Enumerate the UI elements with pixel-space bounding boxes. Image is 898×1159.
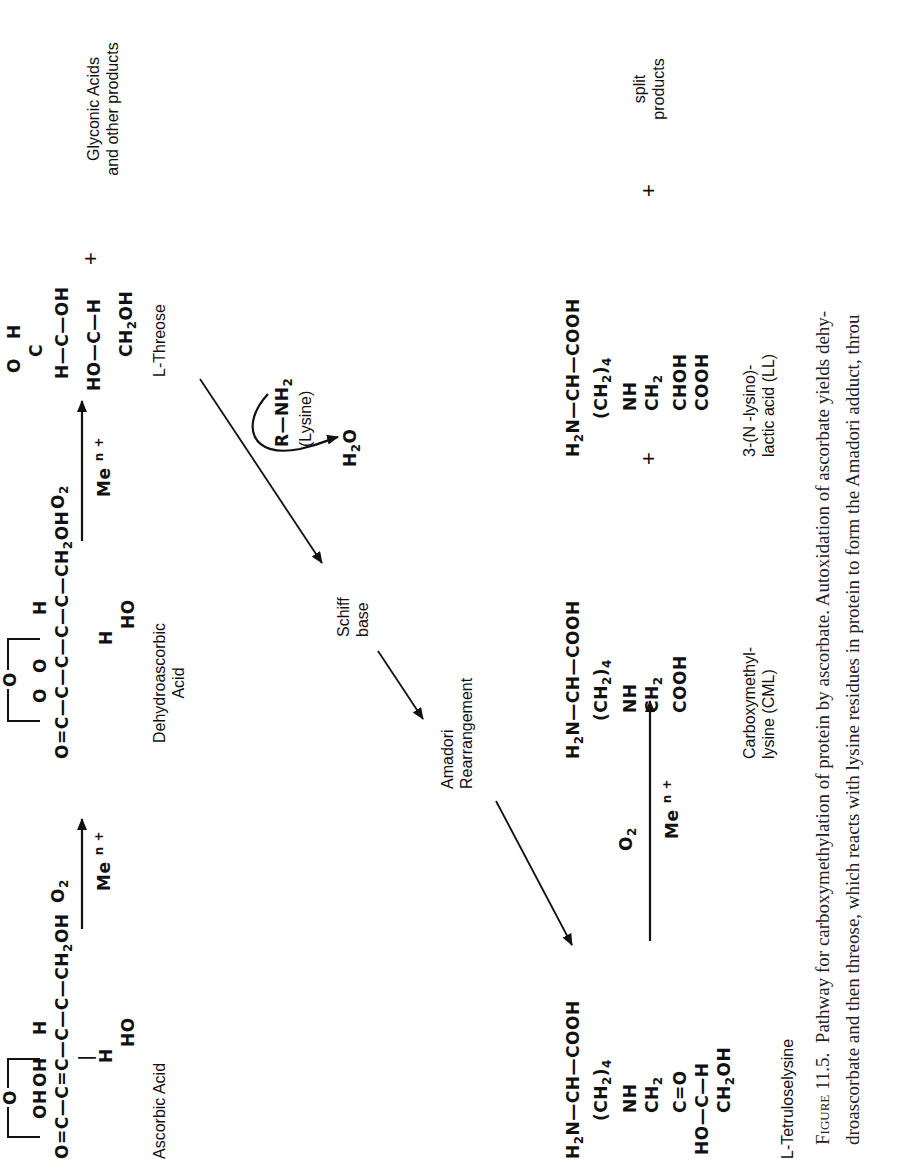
reagent-metal-3: Me n + [660, 779, 682, 839]
threose-aldehyde-o: O [4, 358, 24, 373]
ll-label: 3-(N -lysino)- lactic acid (LL) [740, 354, 778, 457]
ascorbic-ring-oxygen: O [0, 1088, 20, 1107]
plus-sign-threose: + [78, 252, 104, 265]
tetrulose-row-7: CH2OH [713, 1000, 741, 1159]
figure-frame: O OH OH O=C—C=C—C—C—CH2OH | H H HO Ascor… [0, 0, 898, 1159]
dehydroascorbic-acid-label: Dehydroascorbic Acid [150, 613, 188, 753]
schiff-base-label: Schiff base [334, 597, 372, 637]
cml-structure: H2N—CH—COOH (CH2)4 NH CH2 COOH [562, 600, 691, 759]
cml-row-2: (CH2)4 [590, 600, 618, 759]
figure-caption: Figure 11.5. Pathway for carboxymethylat… [808, 0, 868, 1145]
ascorbic-backbone: O=C—C=C—C—C—CH2OH [52, 913, 75, 1159]
l-threose-label: L-Threose [150, 304, 169, 377]
ll-row-3: NH [619, 298, 641, 457]
threose-carbonyl: C [26, 344, 46, 357]
arrow-amadori-to-tetrulose [496, 801, 572, 945]
cml-row-4: CH2 [641, 600, 669, 759]
threose-row-2: HO—C—H [84, 299, 104, 391]
lysine-formula: R—NH2 [272, 378, 295, 447]
threose-aldehyde-h: H [4, 324, 24, 339]
water-formula: H2O [340, 428, 363, 467]
dehydro-backbone: O=C—C—C—C—C—CH2OH [52, 511, 75, 759]
reagent-metal-1: Me n + [92, 831, 114, 891]
plus-sign-ll: + [636, 184, 662, 197]
dehydro-ho: HO [118, 599, 138, 629]
dehydro-ring-oxygen: O [0, 670, 20, 689]
dehydro-keto-2: O [30, 658, 50, 673]
reagent-o2-1: O2 [48, 879, 71, 903]
arrow-schiff-to-amadori [378, 651, 423, 719]
tetrulose-row-6: HO—C—H [691, 1000, 713, 1159]
reagent-o2-3: O2 [616, 827, 639, 851]
threose-row-3: CH2OH [116, 291, 139, 357]
figure-number: Figure 11.5. [812, 1053, 833, 1145]
split-products-label: split products [630, 29, 668, 149]
ascorbic-oh-1: OH [30, 1089, 50, 1119]
tetrulose-row-1: H2N—CH—COOH [562, 1000, 590, 1159]
cml-row-5: COOH [669, 600, 691, 759]
ascorbic-acid-label: Ascorbic Acid [150, 1063, 169, 1159]
glyconic-acids-label: Glyconic Acids and other products [84, 19, 122, 199]
ll-row-2: (CH2)4 [590, 298, 618, 457]
dehydro-h-bottom: H [96, 630, 116, 645]
tetrulose-row-4: CH2 [641, 1000, 669, 1159]
ascorbic-h-top: | [76, 1054, 96, 1061]
l-tetruloselysine-structure: H2N—CH—COOH (CH2)4 NH CH2 C=O HO—C—H CH2… [562, 1000, 742, 1159]
ll-row-5: CHOH [669, 298, 691, 457]
reagent-o2-2: O2 [48, 485, 71, 509]
tetrulose-row-2: (CH2)4 [590, 1000, 618, 1159]
tetrulose-row-5: C=O [669, 1000, 691, 1159]
tetrulose-row-3: NH [619, 1000, 641, 1159]
lysine-label: (Lysine) [296, 391, 315, 447]
pathway-diagram: O OH OH O=C—C=C—C—C—CH2OH | H H HO Ascor… [0, 0, 898, 1159]
caption-line-2: droascorbate and then threose, which rea… [838, 0, 868, 1145]
amadori-rearrangement-label: Amadori Rearrangement [438, 678, 476, 789]
cml-row-1: H2N—CH—COOH [562, 600, 590, 759]
ascorbic-h-bottom: H [96, 1048, 116, 1063]
diagram-lines [0, 0, 898, 1159]
l-tetruloselysine-label: L-Tetruloselysine [778, 1039, 797, 1159]
dehydro-h-upper: H [30, 600, 50, 615]
ascorbic-ho: HO [118, 1017, 138, 1047]
ll-structure: H2N—CH—COOH (CH2)4 NH CH2 CHOH COOH [562, 298, 713, 457]
ll-row-1: H2N—CH—COOH [562, 298, 590, 457]
threose-row-1: H—C—OH [52, 287, 72, 379]
cml-label: Carboxymethyl- lysine (CML) [740, 647, 778, 759]
ascorbic-oh-2: OH [30, 1057, 50, 1087]
ll-row-6: COOH [691, 298, 713, 457]
cml-row-3: NH [619, 600, 641, 759]
ascorbic-h-upper: H [30, 1020, 50, 1035]
caption-line-1: Figure 11.5. Pathway for carboxymethylat… [808, 0, 838, 1145]
dehydro-keto-1: O [30, 688, 50, 703]
reagent-metal-2: Me n + [92, 437, 114, 497]
ll-row-4: CH2 [641, 298, 669, 457]
